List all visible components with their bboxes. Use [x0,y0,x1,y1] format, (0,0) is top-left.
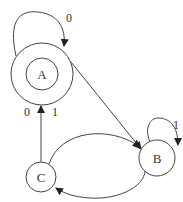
label-c-to-a-left: 0 [24,105,30,119]
edge-b-to-c [56,167,145,198]
state-c-label: C [37,170,46,185]
state-b-label: B [153,151,162,166]
label-a-self: 0 [66,11,72,25]
edge-c-to-b [49,134,140,164]
state-a: A [11,43,73,105]
state-diagram: 0 1 0 0 1 A B C [0,0,183,202]
state-c: C [26,162,56,192]
state-a-label: A [37,67,47,82]
label-c-to-a-right: 1 [52,105,58,119]
label-b-self: 1 [173,118,179,132]
diagram-svg: 0 1 0 0 1 A B C [0,0,183,202]
state-b: B [139,140,175,176]
